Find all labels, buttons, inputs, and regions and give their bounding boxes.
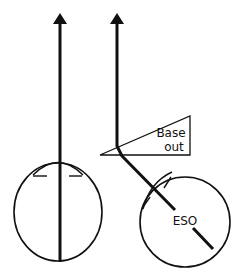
left-sightline-arrow xyxy=(53,13,67,262)
arrowhead-up-icon xyxy=(53,13,67,24)
left-eye xyxy=(14,163,102,262)
base-out-prism: Base out xyxy=(100,116,190,155)
esotropia-prism-diagram: Base out ESO xyxy=(0,0,241,276)
arrowhead-up-icon xyxy=(110,13,124,24)
right-sightline-lower xyxy=(193,228,213,249)
eso-label: ESO xyxy=(173,214,198,228)
right-sightline-upper xyxy=(117,24,175,210)
prism-label-base: Base xyxy=(156,126,185,140)
left-eye-cornea xyxy=(33,163,83,176)
prism-label-out: out xyxy=(164,140,184,154)
left-eye-globe xyxy=(14,163,102,261)
